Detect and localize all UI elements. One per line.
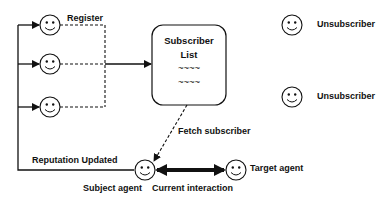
unsubscriber-1-smiley-icon	[282, 15, 302, 35]
fetch-subscriber-label: Fetch subscriber	[178, 126, 251, 136]
subscriber-1-smiley-icon	[40, 15, 60, 35]
subscriber-list-title-line2: List	[152, 49, 226, 60]
register-dashed-lines	[60, 25, 105, 107]
subject-agent-smiley-icon	[135, 160, 155, 180]
subscriber-list-title-line1: Subscriber	[152, 35, 226, 46]
target-agent-smiley-icon	[226, 160, 246, 180]
subscriber-list-entry-1: ~~~~	[152, 62, 226, 73]
subject-agent-label: Subject agent	[83, 183, 142, 193]
subscriber-2-smiley-icon	[40, 54, 60, 74]
target-agent-label: Target agent	[250, 163, 303, 173]
unsubscriber-1-label: Unsubscriber	[317, 19, 375, 29]
unsubscriber-2-label: Unsubscriber	[317, 91, 375, 101]
subscriber-3-smiley-icon	[40, 97, 60, 117]
reputation-updated-label: Reputation Updated	[32, 155, 118, 165]
reputation-feedback-lines	[18, 25, 134, 170]
subscriber-list-entry-2: ~~~~	[152, 76, 226, 87]
unsubscriber-2-smiley-icon	[282, 87, 302, 107]
current-interaction-label: Current interaction	[152, 183, 233, 193]
register-label: Register	[67, 13, 103, 23]
